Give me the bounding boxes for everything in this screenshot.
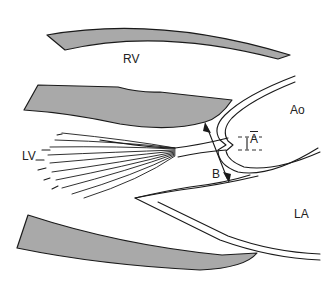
outflow-jet: [48, 133, 175, 198]
label-la: LA: [294, 208, 309, 220]
lv-posterior-wall: [17, 215, 257, 270]
label-ao: Ao: [290, 104, 305, 116]
label-measure-a: A: [250, 133, 258, 145]
posterior-aortic-wall-inner: [135, 175, 250, 198]
rv-free-wall: [47, 28, 290, 59]
cardiac-diagram: [0, 0, 336, 286]
interventricular-septum: [24, 85, 232, 128]
label-rv: RV: [123, 53, 139, 65]
label-lv: LV: [22, 150, 36, 162]
label-measure-b: B: [212, 168, 220, 180]
jet-dashes: [36, 134, 62, 189]
